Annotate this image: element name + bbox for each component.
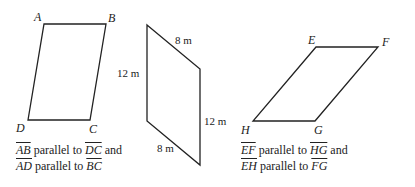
vertex-f: F xyxy=(382,36,389,48)
vertex-c: C xyxy=(89,123,97,135)
measurement-bottom: 8 m xyxy=(157,143,174,154)
caption-line-1: AB parallel to DC and xyxy=(16,142,122,158)
caption-line-1: EF parallel to HG and xyxy=(241,142,348,158)
measurement-left: 12 m xyxy=(117,68,139,79)
vertex-a: A xyxy=(34,11,41,23)
vertex-e: E xyxy=(308,34,315,46)
vertex-b: B xyxy=(108,12,115,24)
measurement-top: 8 m xyxy=(175,35,192,46)
caption-figure-3: EF parallel to HG and EH parallel to FG xyxy=(241,142,348,174)
caption-figure-1: AB parallel to DC and AD parallel to BC xyxy=(16,142,122,174)
caption-line-2: EH parallel to FG xyxy=(241,158,348,174)
measurement-right: 12 m xyxy=(204,116,226,127)
parallelogram-efgh xyxy=(253,47,378,121)
vertex-h: H xyxy=(241,124,250,136)
vertex-d: D xyxy=(16,122,25,134)
vertex-g: G xyxy=(314,124,323,136)
caption-line-2: AD parallel to BC xyxy=(16,158,122,174)
parallelogram-abcd xyxy=(28,24,106,120)
